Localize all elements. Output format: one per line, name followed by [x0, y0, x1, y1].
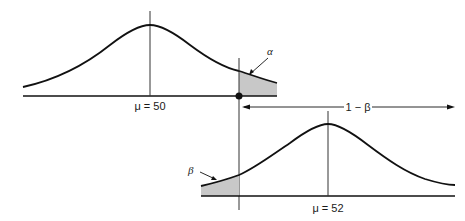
alternative-distribution: β μ = 52	[187, 111, 455, 214]
alpha-region	[239, 71, 277, 96]
critical-value-dot	[236, 93, 243, 100]
beta-label: β	[187, 164, 194, 176]
null-mean-label: μ = 50	[134, 100, 165, 112]
power-label: 1 − β	[346, 101, 371, 113]
hypothesis-test-diagram: α μ = 50 1 − β β μ = 52	[0, 0, 465, 221]
alternative-mean-label: μ = 52	[312, 202, 343, 214]
power-arrowhead-right	[447, 105, 455, 110]
alpha-arrowhead	[249, 69, 254, 75]
power-arrow: 1 − β	[242, 101, 455, 113]
alpha-label: α	[267, 45, 273, 57]
power-arrowhead-left	[242, 105, 250, 110]
